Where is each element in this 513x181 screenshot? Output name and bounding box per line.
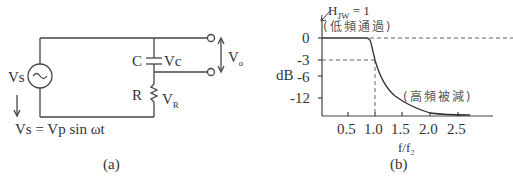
y-tick-minus12: -12 <box>290 91 310 106</box>
y-tick-0: 0 <box>302 31 310 46</box>
frequency-response-chart: HJW = 1 (低頻通過) (高頻被減) dB 0 -3 -6 -12 0.5… <box>260 0 513 181</box>
resistor-voltage-label: VR <box>162 92 179 113</box>
resistor-label: R <box>132 88 142 103</box>
caption-b: (b) <box>390 157 408 172</box>
x-tick-1.5: 1.5 <box>391 122 410 137</box>
circuit-diagram: Vs C Vc R VR Vo Vs = Vp sin ωt (a) <box>0 0 260 181</box>
x-tick-1.0: 1.0 <box>364 122 383 137</box>
y-tick-minus3: -3 <box>297 53 310 68</box>
caption-a: (a) <box>103 157 120 172</box>
circuit-schematic <box>0 0 260 181</box>
x-tick-0.5: 0.5 <box>337 122 356 137</box>
x-tick-2.5: 2.5 <box>447 122 466 137</box>
output-voltage-label: Vo <box>228 50 243 71</box>
x-tick-2.0: 2.0 <box>419 122 438 137</box>
source-equation: Vs = Vp sin ωt <box>15 122 105 137</box>
x-axis-label: f/f₂ <box>398 140 415 155</box>
y-tick-minus6: -6 <box>297 70 310 85</box>
capacitor-label: C <box>132 54 142 69</box>
y-axis-label: dB <box>276 68 294 83</box>
passband-note: (低頻通過) <box>323 20 392 35</box>
capacitor-voltage-label: Vc <box>164 54 182 69</box>
source-label: Vs <box>8 70 25 85</box>
stopband-note: (高頻被減) <box>403 90 472 105</box>
